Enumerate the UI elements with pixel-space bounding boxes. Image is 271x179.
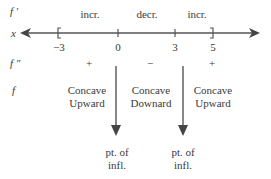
row-label-fprime: f ′ xyxy=(10,5,18,17)
fdoubleprime-sign-2: − xyxy=(147,57,153,69)
concavity-3-line1: Concave xyxy=(194,84,232,96)
row-label-f: f xyxy=(12,84,15,96)
concavity-3-line2: Upward xyxy=(195,97,230,109)
tick-label-3: 3 xyxy=(172,41,178,53)
inflection-1-line2: infl. xyxy=(108,159,126,171)
fdoubleprime-sign-3: + xyxy=(209,57,215,69)
fprime-sign-1: incr. xyxy=(80,8,99,20)
tick-label-0: 0 xyxy=(115,41,121,53)
down-arrow-icon xyxy=(178,125,188,136)
concavity-1-line2: Upward xyxy=(69,97,104,109)
concavity-2-line1: Concave xyxy=(132,84,170,96)
fprime-sign-3: incr. xyxy=(187,8,206,20)
concavity-2-line2: Downard xyxy=(131,97,172,109)
row-label-x: x xyxy=(11,27,16,39)
inflection-1-line1: pt. of xyxy=(105,146,128,158)
fdoubleprime-sign-1: + xyxy=(86,57,92,69)
concavity-1-line1: Concave xyxy=(68,84,106,96)
tick-label-neg3: −3 xyxy=(53,41,65,53)
fprime-sign-2: decr. xyxy=(136,8,157,20)
inflection-2-line2: infl. xyxy=(174,159,192,171)
inflection-2-line1: pt. of xyxy=(171,146,194,158)
row-label-fdoubleprime: f ″ xyxy=(10,57,20,69)
tick-label-5: 5 xyxy=(210,41,216,53)
down-arrow-icon xyxy=(111,125,121,136)
